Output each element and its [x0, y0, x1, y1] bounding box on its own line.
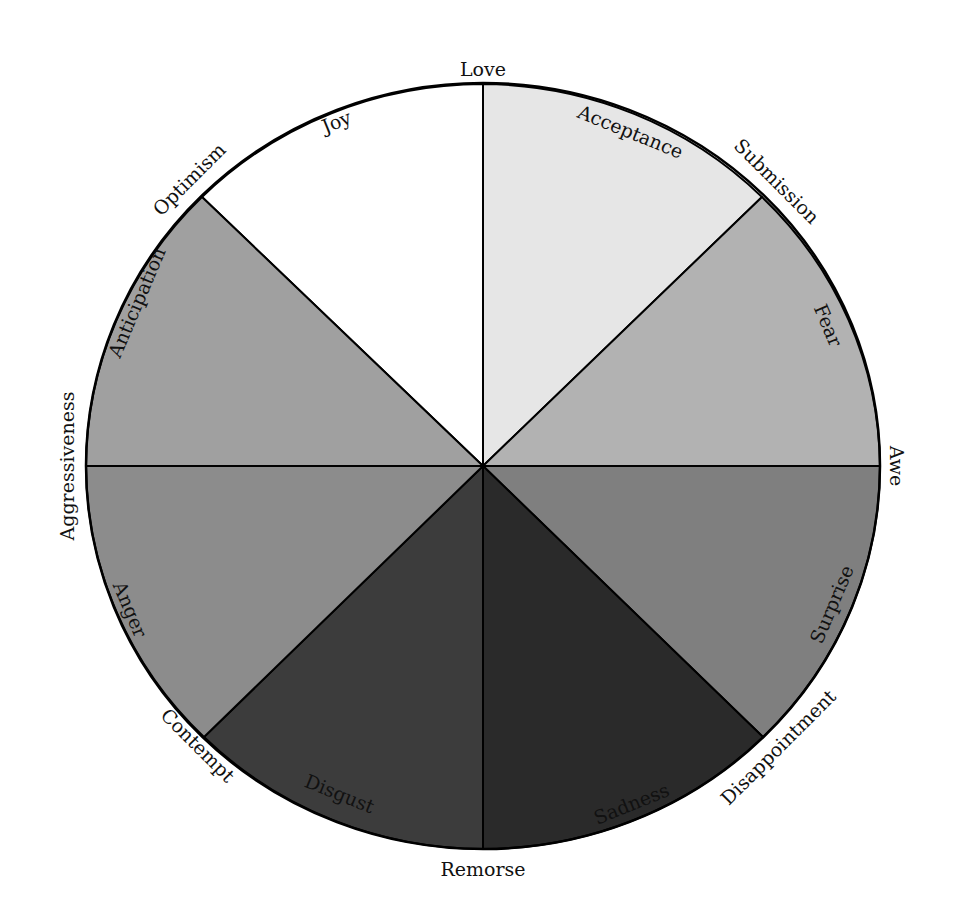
label-love: Love [460, 58, 506, 80]
label-awe: Awe [886, 445, 908, 486]
emotion-wheel: Joy Acceptance Fear Surprise Sadness Dis… [0, 0, 960, 915]
wheel-sectors [86, 83, 880, 849]
label-remorse: Remorse [440, 858, 525, 880]
label-aggressiveness: Aggressiveness [56, 392, 78, 542]
